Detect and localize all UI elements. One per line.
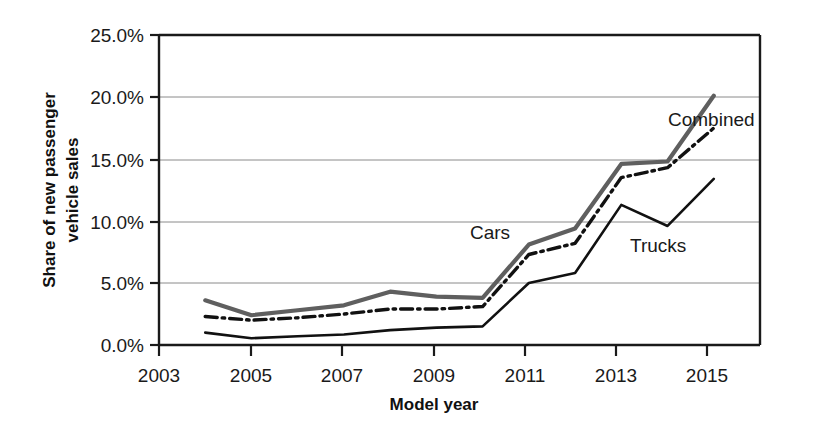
- x-tick-label-2003: 2003: [138, 365, 180, 386]
- x-tickmarks: [159, 345, 707, 356]
- x-tick-label-2015: 2015: [686, 365, 728, 386]
- x-tick-label-2011: 2011: [505, 365, 546, 386]
- chart-container: 25.0% 20.0% 15.0% 10.0% 5.0% 0.0% 2003 2…: [0, 0, 822, 434]
- y-tick-label-10: 10.0%: [90, 212, 144, 233]
- series-line-combined: [205, 128, 714, 320]
- series-label-combined: Combined: [668, 109, 755, 130]
- y-tick-label-25: 25.0%: [90, 25, 144, 46]
- series-label-trucks: Trucks: [630, 235, 686, 256]
- x-axis-title: Model year: [390, 395, 479, 414]
- y-tick-label-15: 15.0%: [90, 150, 144, 171]
- y-axis-title-line2: vehicle sales: [63, 138, 82, 243]
- data-series: [205, 96, 714, 338]
- y-tick-label-0: 0.0%: [101, 335, 144, 356]
- y-tick-labels: 25.0% 20.0% 15.0% 10.0% 5.0% 0.0%: [90, 25, 144, 356]
- y-tick-label-5: 5.0%: [101, 273, 144, 294]
- x-tick-label-2005: 2005: [230, 365, 272, 386]
- x-tick-labels: 2003 2005 2007 2009 2011 2013 2015: [138, 365, 728, 386]
- series-label-cars: Cars: [470, 222, 510, 243]
- x-tick-label-2013: 2013: [595, 365, 637, 386]
- y-tickmarks: [150, 35, 159, 345]
- x-tick-label-2007: 2007: [321, 365, 363, 386]
- series-line-trucks: [205, 179, 714, 338]
- x-tick-label-2009: 2009: [413, 365, 455, 386]
- y-tick-label-20: 20.0%: [90, 87, 144, 108]
- y-axis-title: Share of new passenger vehicle sales: [40, 92, 82, 288]
- series-line-cars: [205, 96, 714, 315]
- y-axis-title-line1: Share of new passenger: [40, 92, 59, 288]
- line-chart: 25.0% 20.0% 15.0% 10.0% 5.0% 0.0% 2003 2…: [0, 0, 822, 434]
